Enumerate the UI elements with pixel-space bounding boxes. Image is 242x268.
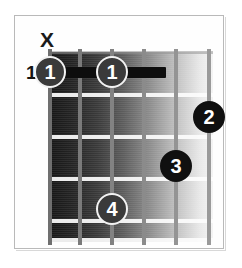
string-4 <box>142 49 146 245</box>
string-2 <box>78 49 82 245</box>
fret-line-3 <box>48 177 213 181</box>
finger-dot-3[interactable]: 3 <box>160 150 192 182</box>
fret-line-nut <box>48 51 213 54</box>
fretboard-texture <box>48 52 213 242</box>
finger-dot-1a[interactable]: 1 <box>34 56 66 88</box>
fret-line-4 <box>48 219 213 223</box>
chord-diagram: X 11 1 1 2 3 4 <box>0 0 242 268</box>
fretboard: 1 1 2 3 4 <box>48 52 213 242</box>
finger-dot-4[interactable]: 4 <box>96 193 128 225</box>
fret-line-5 <box>48 238 213 242</box>
fret-line-1 <box>48 93 213 97</box>
finger-dot-1b[interactable]: 1 <box>96 56 128 88</box>
string-6 <box>207 49 211 245</box>
mute-string-marker-icon: X <box>36 28 58 52</box>
string-5 <box>174 49 178 245</box>
finger-dot-2[interactable]: 2 <box>193 101 225 133</box>
fret-line-2 <box>48 135 213 139</box>
